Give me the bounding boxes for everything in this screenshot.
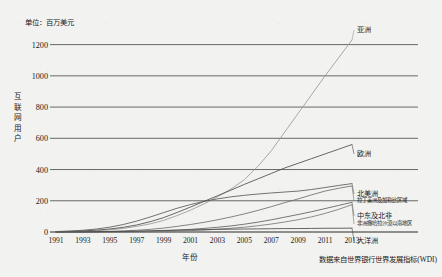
series-leader-line bbox=[352, 30, 354, 40]
series-line bbox=[56, 145, 352, 232]
y-axis-tick-label: 400 bbox=[18, 165, 48, 174]
series-label: 大洋洲 bbox=[357, 237, 378, 245]
y-axis-tick-label: 1000 bbox=[18, 71, 48, 80]
x-axis-tick-label: 1997 bbox=[129, 236, 144, 245]
series-label: 欧洲 bbox=[357, 150, 371, 158]
series-label: 亚洲 bbox=[357, 26, 371, 34]
gridlines bbox=[50, 45, 418, 232]
series-label: 拉丁美洲及加勒比区域 bbox=[357, 197, 407, 203]
series-line bbox=[56, 186, 352, 232]
x-axis-tick-label: 1991 bbox=[48, 236, 63, 245]
y-axis-tick-label: 800 bbox=[18, 103, 48, 112]
x-axis-title: 年份 bbox=[182, 251, 198, 262]
chart-container: 单位：百万美元 互 联 网 用 户 020040060080010001200 … bbox=[0, 0, 442, 277]
source-note: 数据来自世界银行世界发展指标(WDI) bbox=[319, 253, 437, 264]
x-axis-tick-label: 2011 bbox=[318, 236, 333, 245]
x-axis-tick-label: 2009 bbox=[291, 236, 306, 245]
x-axis-tick-label: 1995 bbox=[102, 236, 117, 245]
series-line bbox=[56, 40, 352, 232]
x-axis-tick-label: 2007 bbox=[264, 236, 279, 245]
series-line bbox=[56, 184, 352, 232]
y-axis-tick-label: 600 bbox=[18, 134, 48, 143]
x-axis-tick-label: 2003 bbox=[210, 236, 225, 245]
y-axis-tick-label: 1200 bbox=[18, 40, 48, 49]
series-line bbox=[56, 205, 352, 232]
series-label: 非洲撒哈拉沙漠以南地区 bbox=[357, 220, 412, 226]
x-axis-tick-label: 2005 bbox=[237, 236, 252, 245]
series-line bbox=[56, 202, 352, 232]
y-axis-tick-label: 0 bbox=[18, 228, 48, 237]
series-leader-line bbox=[352, 145, 354, 154]
x-axis-tick-label: 2001 bbox=[183, 236, 198, 245]
series-lines bbox=[56, 30, 354, 241]
x-axis-tick-label: 1993 bbox=[75, 236, 90, 245]
x-axis-tick-label: 1999 bbox=[156, 236, 171, 245]
y-axis-tick-label: 200 bbox=[18, 196, 48, 205]
